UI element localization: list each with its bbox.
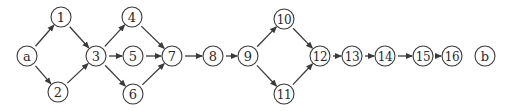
edge-a-to-2 xyxy=(36,66,51,84)
node-b: b xyxy=(475,46,495,66)
node-label: 12 xyxy=(313,50,327,64)
edge-4-to-7 xyxy=(141,26,164,48)
node-label: 6 xyxy=(129,87,137,102)
node-label: 13 xyxy=(345,50,359,64)
node-3: 3 xyxy=(86,46,106,66)
node-label: 10 xyxy=(277,13,291,27)
node-7: 7 xyxy=(162,46,182,66)
node-14: 14 xyxy=(375,46,395,66)
node-label: 4 xyxy=(128,10,136,25)
node-label: 1 xyxy=(57,10,65,25)
node-a: a xyxy=(17,46,37,66)
node-9: 9 xyxy=(238,46,258,66)
node-16: 16 xyxy=(442,46,462,66)
node-label: 15 xyxy=(416,50,430,64)
node-label: 7 xyxy=(168,49,176,64)
edge-2-to-3 xyxy=(67,64,88,84)
node-label: 2 xyxy=(54,85,62,100)
node-13: 13 xyxy=(342,46,362,66)
nodes-layer: a12345678910111213141516b xyxy=(17,7,495,104)
edge-6-to-7 xyxy=(142,64,164,85)
node-4: 4 xyxy=(122,7,142,27)
node-label: 5 xyxy=(129,49,137,64)
node-label: 8 xyxy=(209,49,217,64)
node-label: 3 xyxy=(92,49,100,64)
node-12: 12 xyxy=(310,46,330,66)
node-11: 11 xyxy=(274,84,294,104)
node-1: 1 xyxy=(51,7,71,27)
node-label: b xyxy=(481,49,489,64)
edge-3-to-4 xyxy=(105,25,125,46)
edge-3-to-6 xyxy=(105,65,125,86)
edge-a-to-1 xyxy=(36,25,54,46)
node-label: 11 xyxy=(277,88,291,102)
node-2: 2 xyxy=(48,82,68,102)
node-label: 16 xyxy=(445,50,459,64)
node-label: 14 xyxy=(378,50,393,64)
edge-1-to-3 xyxy=(70,27,89,48)
edge-9-to-11 xyxy=(257,65,277,86)
node-6: 6 xyxy=(123,84,143,104)
edge-11-to-12 xyxy=(293,64,313,85)
directed-graph-diagram: a12345678910111213141516b xyxy=(0,0,510,111)
node-label: a xyxy=(23,49,31,64)
edge-10-to-12 xyxy=(293,28,312,48)
node-5: 5 xyxy=(123,46,143,66)
node-10: 10 xyxy=(274,9,294,29)
node-15: 15 xyxy=(413,46,433,66)
edge-9-to-10 xyxy=(257,27,276,47)
graph-canvas: a12345678910111213141516b xyxy=(0,0,510,111)
node-8: 8 xyxy=(203,46,223,66)
node-label: 9 xyxy=(244,49,252,64)
